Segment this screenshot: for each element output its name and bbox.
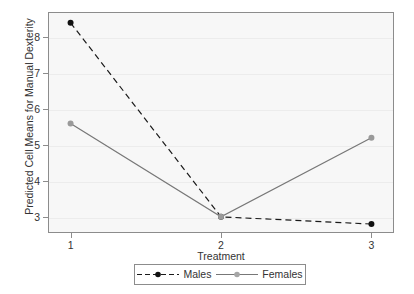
x-tick-mark-1 — [71, 233, 72, 238]
x-tick-mark-3 — [371, 233, 372, 238]
y-tick-label-8: 8 — [0, 32, 40, 42]
y-tick-mark-6 — [43, 109, 48, 110]
chart-figure: Predicted Cell Means for Manual Dexterit… — [0, 0, 414, 294]
gridline-y-7 — [49, 74, 393, 75]
y-tick-mark-7 — [43, 73, 48, 74]
gridline-y-3 — [49, 218, 393, 219]
legend-item-females[interactable]: Females — [216, 269, 302, 280]
legend-swatch-males — [137, 269, 179, 280]
y-tick-label-3: 3 — [0, 212, 40, 222]
y-tick-label-7: 7 — [0, 68, 40, 78]
x-tick-mark-2 — [221, 233, 222, 238]
legend-item-males[interactable]: Males — [137, 269, 211, 280]
y-tick-label-4: 4 — [0, 176, 40, 186]
y-tick-label-6: 6 — [0, 104, 40, 114]
y-tick-mark-3 — [43, 217, 48, 218]
legend-label-females: Females — [262, 269, 302, 280]
y-tick-mark-4 — [43, 181, 48, 182]
chart-legend: Males Females — [134, 264, 306, 285]
gridline-y-8 — [49, 38, 393, 39]
legend-label-males: Males — [183, 269, 211, 280]
gridline-y-4 — [49, 182, 393, 183]
y-tick-mark-5 — [43, 145, 48, 146]
gridline-y-5 — [49, 146, 393, 147]
y-tick-mark-8 — [43, 37, 48, 38]
x-axis-title: Treatment — [48, 250, 394, 262]
plot-area — [48, 12, 394, 233]
gridline-y-6 — [49, 110, 393, 111]
legend-swatch-females — [216, 269, 258, 280]
y-tick-label-5: 5 — [0, 140, 40, 150]
